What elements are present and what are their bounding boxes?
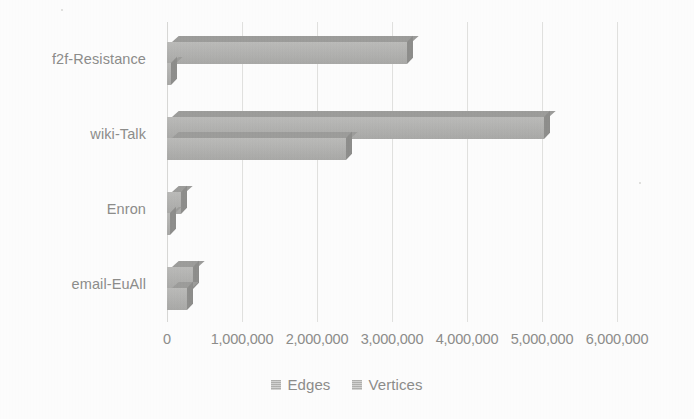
bar-front-face	[167, 138, 346, 160]
bar-front-face	[167, 288, 187, 310]
category-label-email-euall: email-EuAll	[72, 276, 146, 292]
bar-side-face	[170, 207, 176, 235]
legend-label: Edges	[287, 376, 330, 393]
legend-label: Vertices	[368, 376, 422, 393]
bar-side-face	[544, 111, 550, 139]
legend-item-vertices[interactable]: Vertices	[352, 376, 422, 393]
x-tick-label: 5,000,000	[511, 331, 574, 347]
bar-group	[167, 97, 694, 172]
x-tick-label: 6,000,000	[586, 331, 649, 347]
scan-speck	[639, 182, 641, 184]
category-axis: f2f-Resistancewiki-TalkEnronemail-EuAll	[0, 22, 160, 322]
plot-area	[167, 22, 694, 322]
bar-group	[167, 172, 694, 247]
legend-item-edges[interactable]: Edges	[271, 376, 330, 393]
bar-chart: f2f-Resistancewiki-TalkEnronemail-EuAll …	[0, 0, 694, 419]
legend-swatch-vertices	[352, 380, 362, 390]
chart-legend: EdgesVertices	[0, 376, 694, 393]
bar-side-face	[346, 132, 352, 160]
bar-group	[167, 22, 694, 97]
x-tick-label: 1,000,000	[211, 331, 274, 347]
category-label-f2f-resistance: f2f-Resistance	[52, 51, 146, 67]
bar-group	[167, 247, 694, 322]
bar-side-face	[181, 186, 187, 214]
category-label-wiki-talk: wiki-Talk	[90, 126, 146, 142]
x-tick-label: 3,000,000	[361, 331, 424, 347]
category-label-enron: Enron	[107, 201, 146, 217]
bar-front-face	[167, 42, 407, 64]
scan-speck	[61, 9, 63, 11]
x-axis-tick-labels: 01,000,0002,000,0003,000,0004,000,0005,0…	[0, 331, 694, 355]
bar-side-face	[407, 36, 413, 64]
legend-swatch-edges	[271, 380, 281, 390]
x-tick-label: 0	[163, 331, 171, 347]
bar-side-face	[171, 57, 177, 85]
bar-side-face	[187, 282, 193, 310]
x-tick-label: 2,000,000	[286, 331, 349, 347]
x-tick-label: 4,000,000	[436, 331, 499, 347]
